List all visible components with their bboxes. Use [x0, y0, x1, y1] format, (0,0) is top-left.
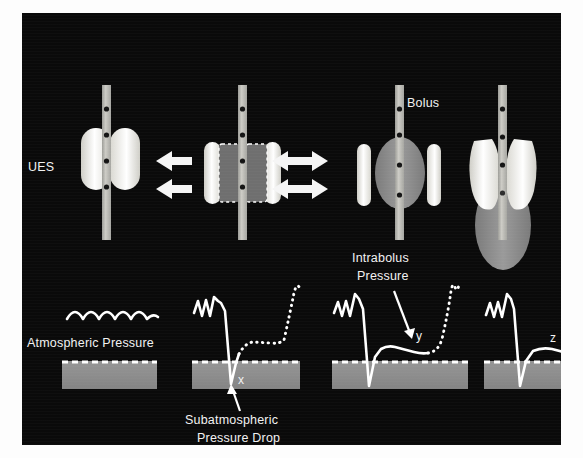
trace-panel-3-dotted [428, 285, 459, 353]
sensor-dot [500, 134, 505, 139]
marker-x: x [238, 373, 244, 387]
sphincter-lobe-right [506, 139, 537, 210]
label-bolus: Bolus [407, 96, 439, 110]
trace-panel-1 [67, 312, 158, 319]
intrabolus-arrowhead-icon [404, 328, 415, 339]
label-atmospheric-pressure: Atmospheric Pressure [27, 336, 154, 350]
arrow-left-icon [156, 151, 192, 171]
relaxed-muscle-block-left [219, 144, 240, 202]
panel-1-anatomy [81, 85, 140, 240]
baseline-bars [62, 361, 561, 389]
sensor-dot [397, 132, 402, 137]
figure-canvas: UES Bolus Atmospheric Pressure Subatmosp… [22, 13, 561, 445]
arrow-right-icon [292, 151, 328, 171]
sensor-dot [104, 132, 109, 137]
panel-2-anatomy [204, 85, 281, 240]
arrow-right-icon [292, 179, 328, 199]
intrabolus-arrow [394, 291, 410, 333]
sensor-dot [397, 192, 402, 197]
arrow-left-icon [156, 179, 192, 199]
sphincter-lobe-right [110, 128, 140, 190]
label-ues: UES [28, 160, 54, 174]
baseline-bar-2 [192, 361, 300, 389]
trace-panel-2-dotted [239, 286, 300, 354]
sensor-dot [240, 184, 245, 189]
sphincter-lobe-right [427, 144, 441, 206]
sensor-dot [240, 106, 245, 111]
sensor-dot [104, 106, 109, 111]
sensor-dot [104, 158, 109, 163]
baseline-bar-1 [62, 361, 157, 389]
panel-4-anatomy [469, 85, 536, 270]
marker-z: z [550, 331, 556, 345]
sensor-dot [500, 106, 505, 111]
sphincter-lobe-left [469, 139, 500, 210]
baseline-bar-3 [332, 361, 468, 389]
sphincter-lobe-left [357, 144, 371, 206]
anatomy-and-trace-layer [22, 13, 561, 445]
relaxed-muscle-block-right [246, 144, 267, 202]
label-subatmospheric-line2: Pressure Drop [197, 431, 280, 445]
sensor-dot [240, 132, 245, 137]
sensor-dot [397, 106, 402, 111]
sensor-dot [397, 162, 402, 167]
sensor-dot [104, 184, 109, 189]
marker-y: y [416, 329, 422, 343]
arrow-group-left [156, 151, 192, 199]
label-intrabolus-line2: Pressure [357, 269, 409, 283]
sensor-dot [240, 158, 245, 163]
label-intrabolus-line1: Intrabolus [352, 251, 409, 265]
sensor-dot [500, 162, 505, 167]
label-subatmospheric-line1: Subatmospheric [185, 413, 278, 427]
sensor-dot [500, 190, 505, 195]
